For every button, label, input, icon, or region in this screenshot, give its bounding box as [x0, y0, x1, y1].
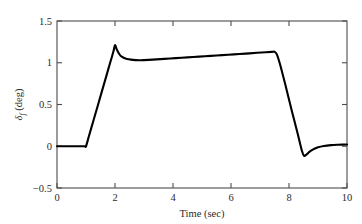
- y-tick-label-neg0_5: −0.5: [33, 183, 52, 194]
- line-chart: 1.5 1 0.5 0 −0.5 0 2 4 6 8 10 Time (sec)…: [0, 0, 362, 224]
- y-axis-ticks: [57, 21, 347, 188]
- x-tick-label-10: 10: [342, 192, 353, 203]
- x-axis-ticks: [57, 21, 347, 188]
- y-axis-title-unit: (deg): [13, 88, 25, 111]
- x-tick-label-4: 4: [170, 192, 176, 203]
- data-series-front-steering-angle: [57, 45, 347, 156]
- x-tick-label-0: 0: [54, 192, 59, 203]
- plot-frame: [57, 21, 347, 188]
- y-tick-label-0: 0: [47, 141, 52, 152]
- x-tick-label-8: 8: [286, 192, 291, 203]
- y-tick-label-0_5: 0.5: [39, 99, 52, 110]
- svg-text:δf (deg): δf (deg): [13, 88, 27, 120]
- figure-container: 1.5 1 0.5 0 −0.5 0 2 4 6 8 10 Time (sec)…: [0, 0, 362, 224]
- y-axis-title: δf (deg): [13, 88, 27, 120]
- y-tick-label-1: 1: [47, 57, 52, 68]
- y-tick-label-1_5: 1.5: [39, 16, 52, 27]
- x-tick-label-6: 6: [228, 192, 233, 203]
- x-axis-title: Time (sec): [180, 208, 225, 220]
- x-tick-label-2: 2: [112, 192, 117, 203]
